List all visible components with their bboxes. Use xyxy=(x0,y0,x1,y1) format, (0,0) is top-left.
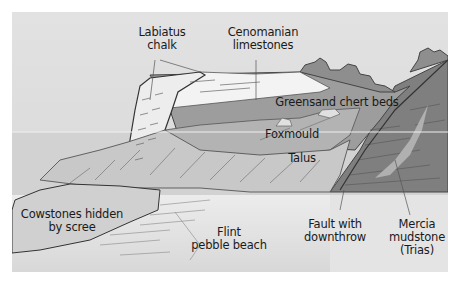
label-line: Talus xyxy=(272,152,332,165)
label-flint-pebble-beach: Flint pebble beach xyxy=(184,226,274,252)
label-line: (Trias) xyxy=(382,244,448,257)
cliff-cross-section-diagram: Labiatus chalk Cenomanian limestones Gre… xyxy=(12,12,448,272)
label-talus: Talus xyxy=(272,152,332,165)
label-fault-with-downthrow: Fault with downthrow xyxy=(295,218,375,244)
label-cowstones-hidden-by-scree: Cowstones hidden by scree xyxy=(12,208,132,234)
label-line: by scree xyxy=(12,221,132,234)
label-line: downthrow xyxy=(295,231,375,244)
label-foxmould: Foxmould xyxy=(252,128,332,141)
label-line: chalk xyxy=(126,39,198,52)
label-mercia-mudstone: Mercia mudstone (Trias) xyxy=(382,218,448,257)
label-line: limestones xyxy=(218,39,308,52)
label-greensand-chert-beds: Greensand chert beds xyxy=(262,96,412,109)
label-line: Greensand chert beds xyxy=(262,96,412,109)
label-labiatus-chalk: Labiatus chalk xyxy=(126,26,198,52)
label-line: pebble beach xyxy=(184,239,274,252)
label-line: Foxmould xyxy=(252,128,332,141)
label-cenomanian-limestones: Cenomanian limestones xyxy=(218,26,308,52)
